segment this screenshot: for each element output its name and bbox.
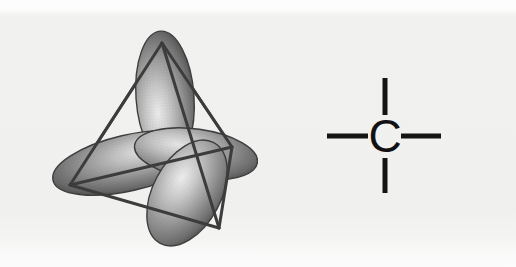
carbon-atom-label: C bbox=[368, 110, 401, 162]
carbon-diagram-panel: C bbox=[258, 0, 516, 267]
chemistry-figure: C bbox=[0, 0, 516, 267]
orbital-model-panel bbox=[0, 0, 258, 267]
